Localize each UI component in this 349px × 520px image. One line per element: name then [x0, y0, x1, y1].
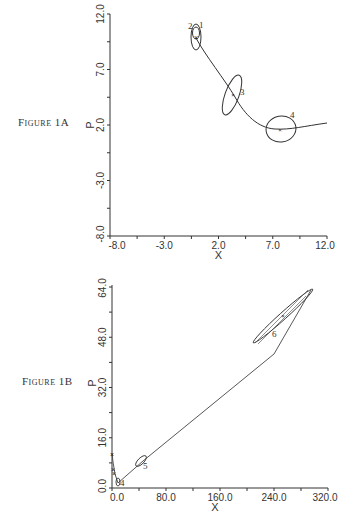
x-tick-label: -8.0 — [108, 240, 126, 251]
x-axis-label: X — [211, 501, 219, 513]
point-marker: × — [278, 127, 282, 133]
point-label-2: 2 — [188, 21, 193, 31]
point-marker: × — [110, 451, 114, 458]
point-marker: × — [231, 92, 235, 98]
chart-1a: 12.0 7.0 2.0 -3.0 -8.0 P -8.0 -3.0 2.0 7… — [84, 4, 335, 261]
x-tick-label: 12.0 — [315, 240, 335, 251]
y-tick-label: 2.0 — [95, 118, 106, 132]
x-tick-label: 240.0 — [261, 492, 286, 503]
x-tick-label: -3.0 — [156, 240, 174, 251]
point-label-1: 1 — [199, 20, 204, 30]
point-label-4: 4 — [120, 478, 125, 488]
trajectory-curve — [196, 38, 327, 129]
point-label-5: 5 — [143, 461, 148, 471]
point-label-4: 4 — [290, 110, 295, 120]
point-marker: × — [194, 33, 199, 42]
y-tick-label: -3.0 — [95, 171, 106, 189]
inner-line — [258, 296, 306, 344]
x-axis-label: X — [215, 249, 223, 261]
x-tick-label: 7.0 — [266, 240, 280, 251]
y-tick-label: 16.0 — [97, 428, 108, 448]
point-label-6: 6 — [272, 329, 277, 339]
point-marker: × — [112, 470, 116, 477]
y-tick-label: 0.0 — [97, 479, 108, 493]
y-tick-label: 7.0 — [95, 62, 106, 76]
x-tick-label: 320.0 — [312, 492, 337, 503]
y-tick-label: 48.0 — [97, 327, 108, 347]
chart-1b: 0.0 16.0 32.0 48.0 64.0 P 0.0 80.0 160.0… — [86, 278, 338, 513]
y-axis-label: P — [84, 121, 96, 128]
y-tick-label: 64.0 — [97, 278, 108, 298]
point-marker: × — [281, 313, 285, 319]
y-tick-label: 12.0 — [95, 4, 106, 24]
y-tick-label: -8.0 — [95, 225, 106, 243]
x-tick-label: 80.0 — [156, 492, 176, 503]
y-tick-label: 32.0 — [97, 377, 108, 397]
point-label-3: 3 — [240, 87, 245, 97]
x-tick-label: 0.0 — [110, 492, 124, 503]
figures-canvas: 12.0 7.0 2.0 -3.0 -8.0 P -8.0 -3.0 2.0 7… — [0, 0, 349, 520]
y-axis-label: P — [86, 379, 98, 386]
